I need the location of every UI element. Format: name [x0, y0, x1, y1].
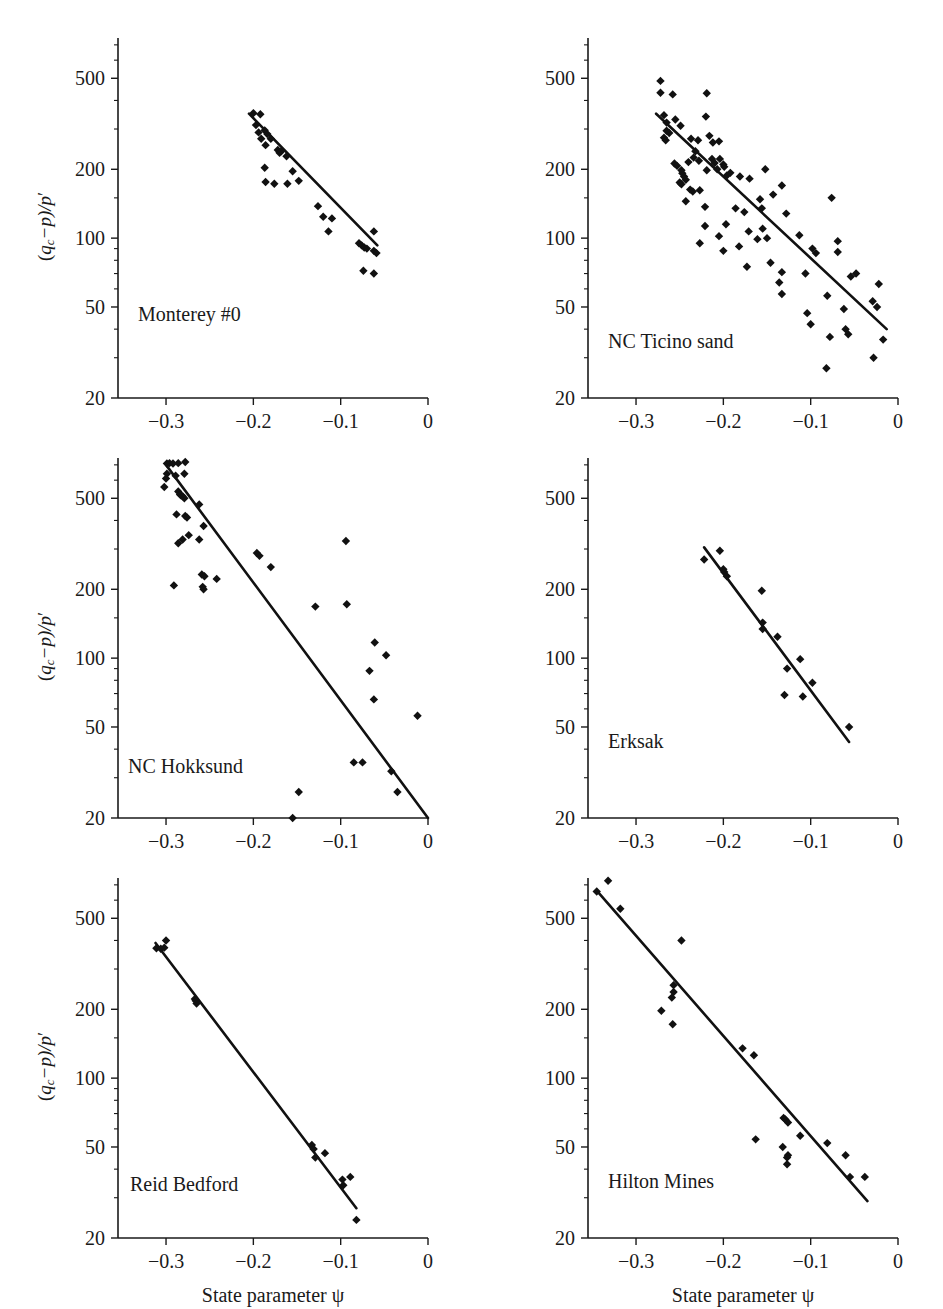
x-axis-label: State parameter ψ [588, 1284, 898, 1307]
data-point [796, 1132, 804, 1140]
data-point [758, 587, 766, 595]
panel-reid-bedford: 2050100200500−0.3−0.2−0.10(qc−p)/p′Reid … [0, 860, 470, 1280]
data-point [827, 194, 835, 202]
data-point [701, 203, 709, 211]
data-point [181, 458, 189, 466]
data-point [743, 263, 751, 271]
data-point [288, 167, 296, 175]
data-point [722, 220, 730, 228]
data-point [172, 510, 180, 518]
data-point [413, 712, 421, 720]
x-tick-label: −0.3 [618, 830, 654, 852]
regression-line [156, 943, 357, 1208]
data-point [875, 280, 883, 288]
y-tick-label: 200 [75, 158, 105, 180]
data-point [267, 563, 275, 571]
y-tick-label: 50 [555, 716, 575, 738]
x-tick-label: 0 [423, 830, 433, 852]
y-tick-label: 500 [75, 907, 105, 929]
x-tick-label: −0.3 [148, 410, 184, 432]
panel-label: NC Ticino sand [608, 330, 734, 353]
data-point [738, 1044, 746, 1052]
plot-area: 2050100200500−0.3−0.2−0.10 [0, 20, 468, 444]
data-point [256, 110, 264, 118]
x-tick-label: −0.1 [323, 410, 359, 432]
data-point [170, 581, 178, 589]
x-tick-label: 0 [893, 410, 903, 432]
y-tick-label: 200 [75, 578, 105, 600]
panel-nc-ticino-sand: 2050100200500−0.3−0.2−0.10NC Ticino sand [470, 20, 940, 440]
data-point [783, 664, 791, 672]
y-tick-label: 50 [85, 296, 105, 318]
data-point [370, 695, 378, 703]
data-point [162, 936, 170, 944]
data-point [782, 209, 790, 217]
x-tick-label: −0.1 [323, 1250, 359, 1272]
y-tick-label: 100 [75, 1067, 105, 1089]
data-point [779, 1143, 787, 1151]
data-point [346, 1173, 354, 1181]
data-point [719, 247, 727, 255]
data-point [761, 165, 769, 173]
data-point [769, 190, 777, 198]
panel-label: Reid Bedford [130, 1173, 238, 1196]
data-point [840, 305, 848, 313]
data-point [212, 575, 220, 583]
x-tick-label: 0 [893, 1250, 903, 1272]
panel-label: Hilton Mines [608, 1170, 714, 1193]
y-tick-label: 100 [545, 227, 575, 249]
data-point [160, 483, 168, 491]
regression-line [656, 114, 887, 329]
y-tick-label: 20 [555, 1227, 575, 1249]
y-tick-label: 50 [85, 1136, 105, 1158]
data-point [359, 267, 367, 275]
data-point [676, 122, 684, 130]
x-tick-label: −0.2 [235, 1250, 271, 1272]
data-point [350, 758, 358, 766]
data-point [766, 259, 774, 267]
x-tick-label: −0.2 [235, 830, 271, 852]
y-axis-label: (qc−p)/p′ [34, 1032, 58, 1101]
data-point [370, 269, 378, 277]
x-tick-label: −0.1 [793, 1250, 829, 1272]
data-point [834, 248, 842, 256]
y-tick-label: 500 [545, 907, 575, 929]
regression-line [597, 891, 868, 1201]
data-point [744, 227, 752, 235]
x-tick-label: −0.3 [148, 830, 184, 852]
data-point [703, 89, 711, 97]
data-point [321, 1149, 329, 1157]
y-tick-label: 200 [545, 158, 575, 180]
x-tick-label: −0.2 [705, 830, 741, 852]
figure-root: 2050100200500−0.3−0.2−0.10(qc−p)/p′Monte… [0, 0, 943, 1309]
x-tick-label: −0.2 [235, 410, 271, 432]
data-point [180, 470, 188, 478]
data-point [745, 174, 753, 182]
x-tick-label: −0.3 [618, 1250, 654, 1272]
data-point [808, 679, 816, 687]
data-point [195, 535, 203, 543]
data-point [365, 667, 373, 675]
data-point [677, 936, 685, 944]
x-tick-label: 0 [423, 1250, 433, 1272]
data-point [841, 1151, 849, 1159]
data-point [319, 213, 327, 221]
data-point [823, 292, 831, 300]
panel-label: NC Hokksund [128, 755, 243, 778]
y-tick-label: 20 [555, 387, 575, 409]
y-tick-label: 100 [75, 647, 105, 669]
data-point [763, 234, 771, 242]
panel-hilton-mines: 2050100200500−0.3−0.2−0.10Hilton MinesSt… [470, 860, 940, 1280]
data-point [604, 876, 612, 884]
data-point [845, 723, 853, 731]
data-point [753, 235, 761, 243]
data-point [873, 303, 881, 311]
data-point [868, 297, 876, 305]
data-point [701, 222, 709, 230]
panel-monterey-0: 2050100200500−0.3−0.2−0.10(qc−p)/p′Monte… [0, 20, 470, 440]
x-tick-label: −0.3 [618, 410, 654, 432]
y-tick-label: 500 [545, 67, 575, 89]
plot-area: 2050100200500−0.3−0.2−0.10 [0, 860, 468, 1284]
x-axis-label: State parameter ψ [118, 1284, 428, 1307]
data-point [261, 141, 269, 149]
